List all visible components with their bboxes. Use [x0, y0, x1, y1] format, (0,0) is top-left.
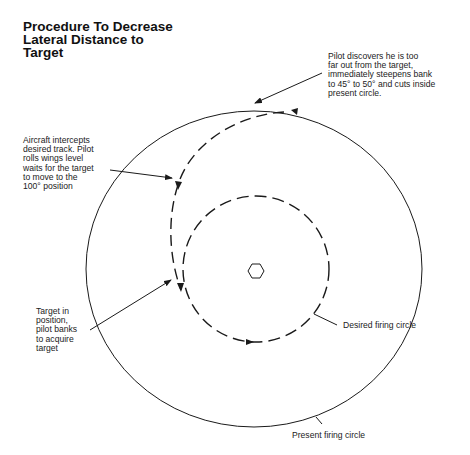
present-circle-direction-arrow-icon	[291, 108, 298, 115]
leader-pilot-discovers	[255, 73, 322, 103]
merge-arrow-icon	[177, 283, 184, 292]
leader-desired-firing-circle	[314, 314, 337, 325]
aircraft-track-path	[171, 112, 284, 290]
leader-target-in-position	[90, 280, 171, 330]
leader-present-firing-circle	[316, 417, 322, 424]
present-firing-circle	[86, 111, 422, 427]
desired-firing-circle	[183, 196, 329, 342]
track-arrow-icon	[175, 181, 182, 190]
desired-circle-direction-arrow-icon	[246, 339, 254, 345]
target-hexagon-icon	[248, 264, 264, 278]
procedure-diagram	[0, 0, 470, 455]
